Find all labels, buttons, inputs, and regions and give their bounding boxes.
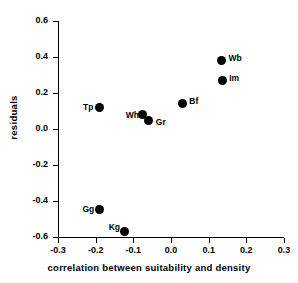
x-axis-label: correlation between suitability and dens… [0,262,298,273]
data-point-im [218,76,227,85]
y-tick-label: -0.4 [2,195,48,205]
data-point-label-kg: Kg [109,222,120,232]
x-tick-mark [96,238,97,243]
y-tick-label: 0.0 [2,123,48,133]
x-tick-mark [133,238,134,243]
y-tick-label: -0.2 [2,159,48,169]
data-point-label-tp: Tp [83,102,93,112]
x-tick-mark [171,238,172,243]
x-tick-label: 0.3 [262,245,298,255]
data-point-label-gr: Gr [156,117,166,127]
y-tick-label: -0.6 [2,231,48,241]
data-point-gr [144,116,153,125]
x-tick-mark [246,238,247,243]
data-point-kg [120,227,129,236]
y-tick-label: 0.2 [2,87,48,97]
data-point-label-wb: Wb [228,53,241,63]
y-tick-label: 0.6 [2,15,48,25]
data-point-label-im: Im [229,73,239,83]
y-axis-label: residuals [8,68,19,168]
y-tick-mark [53,129,58,130]
y-axis-line [58,21,59,238]
data-point-wb [217,56,226,65]
x-tick-mark [284,238,285,243]
data-point-label-gg: Gg [82,204,94,214]
data-point-gg [95,205,104,214]
x-tick-mark [58,238,59,243]
scatter-plot-figure: residuals 0.60.40.20.0-0.2-0.4-0.6 -0.3-… [0,0,298,283]
y-tick-mark [53,201,58,202]
y-tick-mark [53,57,58,58]
y-tick-mark [53,21,58,22]
x-tick-mark [209,238,210,243]
data-point-label-wh: Wh [126,110,139,120]
data-point-label-bf: Bf [189,96,198,106]
y-tick-label: 0.4 [2,51,48,61]
data-point-tp [95,103,104,112]
y-tick-mark [53,165,58,166]
data-point-bf [178,99,187,108]
y-tick-mark [53,93,58,94]
